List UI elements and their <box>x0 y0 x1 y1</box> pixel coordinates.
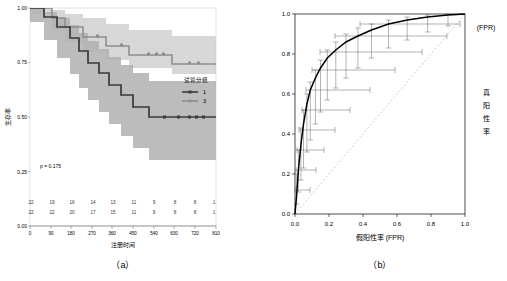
svg-text:9: 9 <box>153 210 156 215</box>
svg-text:22: 22 <box>28 200 34 205</box>
svg-text:1.0: 1.0 <box>461 221 470 227</box>
roc-plot-area <box>295 14 465 214</box>
svg-text:0.6: 0.6 <box>282 91 291 97</box>
panel-a-caption: （a） <box>111 260 134 270</box>
km-x-axis-label: 注册时间 <box>111 241 135 249</box>
km-y-axis: 1.00 0.75 0.50 0.25 0.00 <box>17 5 27 229</box>
km-pvalue-annotation: p = 0.175 <box>40 163 61 169</box>
svg-text:180: 180 <box>67 231 75 236</box>
km-ytick-025: 0.25 <box>17 169 27 175</box>
svg-text:810: 810 <box>212 231 220 236</box>
panel-b-caption: （b） <box>368 260 391 270</box>
km-plot-svg: 1.00 0.75 0.50 0.25 0.00 生存率 试验分组 1 3 p … <box>0 0 250 281</box>
svg-text:0.4: 0.4 <box>282 131 291 137</box>
svg-text:8: 8 <box>174 200 177 205</box>
km-y-axis-label: 生存率 <box>4 108 12 126</box>
roc-x-ticklabels: 0.0 0.2 0.4 0.6 0.8 1.0 <box>291 221 470 227</box>
roc-x-ticks <box>295 214 465 217</box>
svg-text:0: 0 <box>29 231 32 236</box>
svg-text:720: 720 <box>191 231 199 236</box>
svg-text:90: 90 <box>48 231 54 236</box>
roc-y-axis-label-char2: 阳 <box>483 101 490 110</box>
svg-text:0.2: 0.2 <box>325 221 334 227</box>
roc-x-axis-label: 假阳性率 (FPR) <box>356 233 405 242</box>
svg-text:0.0: 0.0 <box>291 221 300 227</box>
svg-text:9: 9 <box>153 200 156 205</box>
svg-text:0.6: 0.6 <box>393 221 402 227</box>
svg-text:8: 8 <box>174 210 177 215</box>
km-legend-label-1: 1 <box>203 89 206 95</box>
km-ytick-075: 0.75 <box>17 59 27 65</box>
svg-text:450: 450 <box>129 231 137 236</box>
svg-text:0.2: 0.2 <box>282 171 291 177</box>
roc-y-axis-label-char1: 真 <box>483 88 490 97</box>
svg-text:20: 20 <box>69 210 75 215</box>
svg-text:13: 13 <box>110 200 116 205</box>
km-legend-title: 试验分组 <box>184 76 208 84</box>
roc-plot-svg: 0.0 0.2 0.4 0.6 0.8 1.0 0.0 0.2 0.4 0.6 … <box>250 0 507 281</box>
panel-a-kaplan-meier: 1.00 0.75 0.50 0.25 0.00 生存率 试验分组 1 3 p … <box>0 0 250 281</box>
svg-text:22: 22 <box>49 210 55 215</box>
svg-text:19: 19 <box>49 200 55 205</box>
roc-y-axis-label-top: (FPR) <box>477 24 496 32</box>
km-ytick-1: 1.00 <box>17 5 27 11</box>
km-legend-label-3: 3 <box>203 98 206 104</box>
roc-y-ticks <box>292 14 295 214</box>
svg-text:0.4: 0.4 <box>359 221 368 227</box>
svg-text:630: 630 <box>170 231 178 236</box>
svg-text:15: 15 <box>110 210 116 215</box>
svg-text:540: 540 <box>150 231 158 236</box>
km-ytick-000: 0.00 <box>17 223 27 229</box>
svg-text:270: 270 <box>88 231 96 236</box>
svg-text:16: 16 <box>69 200 75 205</box>
panel-b-roc: 0.0 0.2 0.4 0.6 0.8 1.0 0.0 0.2 0.4 0.6 … <box>250 0 507 281</box>
svg-text:0.8: 0.8 <box>282 51 291 57</box>
svg-text:0.0: 0.0 <box>282 211 291 217</box>
svg-text:22: 22 <box>28 210 34 215</box>
km-x-ticklabels: 0 90 180 270 360 450 540 630 720 810 <box>29 231 221 236</box>
roc-y-axis-label-char4: 率 <box>483 127 490 136</box>
svg-text:1.0: 1.0 <box>282 11 291 17</box>
km-x-ticks <box>30 226 216 229</box>
km-ytick-050: 0.50 <box>17 114 27 120</box>
svg-text:11: 11 <box>132 210 137 215</box>
svg-text:11: 11 <box>132 200 137 205</box>
svg-text:360: 360 <box>108 231 116 236</box>
svg-text:1: 1 <box>213 210 216 215</box>
roc-y-ticklabels: 0.0 0.2 0.4 0.6 0.8 1.0 <box>282 11 291 217</box>
svg-text:1: 1 <box>213 200 216 205</box>
svg-text:14: 14 <box>90 200 96 205</box>
svg-text:8: 8 <box>194 210 197 215</box>
svg-text:0.8: 0.8 <box>427 221 436 227</box>
svg-text:8: 8 <box>194 200 197 205</box>
svg-text:17: 17 <box>90 210 96 215</box>
roc-y-axis-label-char3: 性 <box>483 114 490 123</box>
